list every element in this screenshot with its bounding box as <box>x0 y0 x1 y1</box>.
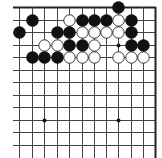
black-stone <box>52 52 64 64</box>
black-stone <box>27 15 39 27</box>
black-stone <box>138 40 150 52</box>
black-stone <box>77 40 89 52</box>
black-stone <box>89 15 101 27</box>
white-stone <box>77 27 88 38</box>
white-stone <box>101 27 112 38</box>
white-stone <box>89 52 100 63</box>
white-stone <box>77 52 88 63</box>
hoshi-point <box>43 119 47 123</box>
white-stone <box>39 40 50 51</box>
go-board <box>0 0 162 158</box>
white-stone <box>126 52 137 63</box>
black-stone <box>27 52 39 64</box>
white-stone <box>113 15 124 26</box>
black-stone <box>77 15 89 27</box>
hoshi-point <box>117 44 121 48</box>
white-stone <box>52 40 63 51</box>
white-stone <box>89 40 100 51</box>
white-stone <box>138 52 149 63</box>
black-stone <box>64 27 76 39</box>
black-stone <box>126 15 138 27</box>
white-stone <box>113 27 124 38</box>
black-stone <box>64 40 76 52</box>
white-stone <box>113 52 124 63</box>
black-stone <box>113 2 125 14</box>
hoshi-point <box>117 119 121 123</box>
white-stone <box>64 52 75 63</box>
black-stone <box>52 27 64 39</box>
black-stone <box>101 15 113 27</box>
black-stone <box>39 52 51 64</box>
black-stone <box>14 27 26 39</box>
white-stone <box>64 15 75 26</box>
black-stone <box>126 27 138 39</box>
black-stone <box>126 40 138 52</box>
white-stone <box>89 27 100 38</box>
